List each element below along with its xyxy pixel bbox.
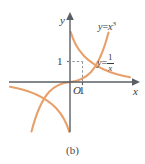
curve-label-reciprocal-fraction: 1x	[107, 53, 114, 73]
curve-label-cubic: y=x3	[98, 21, 116, 32]
x-axis-tick-label-1: 1	[79, 85, 85, 96]
curve-label-cubic-exponent: 3	[113, 20, 117, 28]
x-axis-label: x	[133, 86, 138, 97]
y-axis-tick-label-1: 1	[57, 56, 63, 67]
plot-canvas	[0, 0, 145, 164]
figure-panel-b: y x O 1 1 y=x3 y=1x (b)	[0, 0, 145, 164]
figure-caption: (b)	[0, 145, 145, 156]
fraction-numerator: 1	[107, 53, 114, 62]
y-axis-arrow-icon	[66, 12, 74, 20]
curve-cubic-branch-negative	[32, 82, 71, 132]
fraction-denominator: x	[107, 64, 114, 73]
curve-label-reciprocal: y=1x	[97, 54, 114, 74]
y-axis-label: y	[60, 15, 65, 26]
